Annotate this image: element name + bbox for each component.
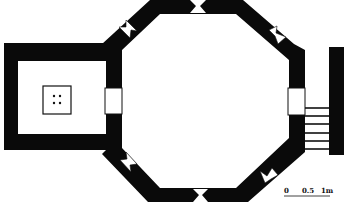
west-doorway xyxy=(105,88,122,114)
scale-label-1m: 1m xyxy=(321,186,334,195)
annex-central-feature xyxy=(43,86,71,114)
scale-label-0: 0 xyxy=(284,186,289,195)
scale-label-half: 0.5 xyxy=(302,186,314,195)
floor-plan: 0 0.5 1m xyxy=(0,0,350,202)
east-doorway xyxy=(288,88,305,115)
scale-bar: 0 0.5 1m xyxy=(284,186,334,196)
staircase xyxy=(305,47,344,155)
